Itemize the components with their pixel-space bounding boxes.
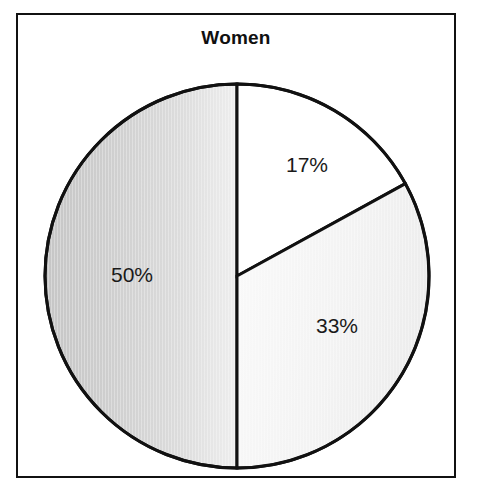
pie-slice-label-17: 17% <box>286 154 328 175</box>
pie-chart-graphic <box>0 2 478 497</box>
pie-chart-figure: Women <box>0 0 478 497</box>
chart-frame: Women <box>16 13 456 478</box>
pie-slice-label-33: 33% <box>316 315 358 336</box>
pie-slice-label-50: 50% <box>111 264 153 285</box>
